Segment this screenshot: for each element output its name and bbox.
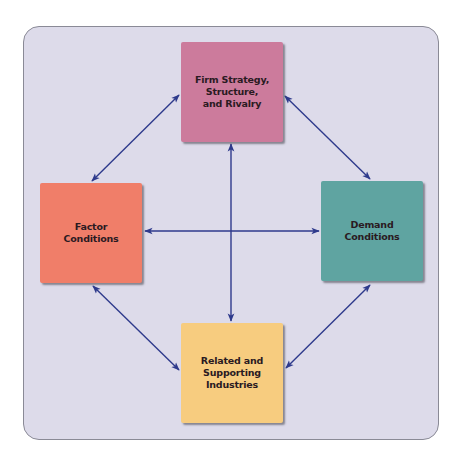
node-factor-conditions: Factor Conditions (40, 183, 142, 283)
node-label: Demand Conditions (344, 219, 399, 243)
arrow-right-bottom (286, 285, 370, 368)
node-firm-strategy: Firm Strategy, Structure, and Rivalry (181, 42, 283, 142)
node-label: Factor Conditions (63, 221, 118, 245)
arrow-left-bottom (93, 286, 179, 370)
node-label: Firm Strategy, Structure, and Rivalry (195, 74, 269, 110)
arrow-top-right (285, 96, 370, 179)
node-demand-conditions: Demand Conditions (321, 181, 423, 281)
arrow-top-left (92, 95, 179, 181)
node-label: Related and Supporting Industries (201, 355, 263, 391)
node-related-supporting-industries: Related and Supporting Industries (181, 323, 283, 423)
